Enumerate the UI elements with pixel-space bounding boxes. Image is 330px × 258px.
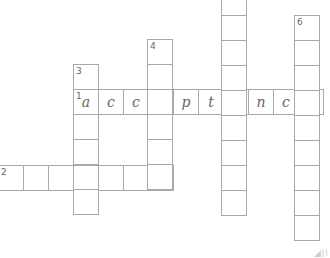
cell-letter: c [124, 94, 148, 110]
crossword-cell[interactable] [294, 190, 320, 216]
crossword-cell[interactable] [147, 139, 173, 165]
crossword-cell[interactable] [221, 90, 247, 116]
crossword-cell[interactable] [73, 189, 99, 215]
crossword-cell[interactable] [123, 165, 149, 191]
crossword-cell[interactable] [98, 165, 124, 191]
crossword-cell[interactable] [221, 165, 247, 191]
crossword-cell[interactable] [294, 90, 320, 116]
crossword-cell[interactable] [23, 165, 49, 191]
crossword-cell[interactable] [221, 140, 247, 166]
crossword-cell[interactable] [294, 165, 320, 191]
crossword-cell[interactable]: 2 [0, 165, 24, 191]
clue-number: 2 [1, 167, 7, 177]
crossword-cell[interactable]: 3 [73, 64, 99, 90]
crossword-cell[interactable]: c [123, 89, 149, 115]
clue-number: 5 [224, 0, 230, 2]
audio-icon[interactable]: ◢)) [314, 248, 328, 258]
cell-letter: n [249, 94, 273, 110]
crossword-cell[interactable] [221, 40, 247, 66]
crossword-cell[interactable] [73, 139, 99, 165]
crossword-cell[interactable] [147, 64, 173, 90]
cell-letter: a [74, 94, 98, 110]
crossword-cell[interactable] [147, 164, 173, 190]
crossword-cell[interactable] [73, 114, 99, 140]
crossword-cell[interactable] [147, 114, 173, 140]
crossword-board: 1acceptance23456 [0, 0, 330, 258]
crossword-cell[interactable]: 4 [147, 39, 173, 65]
crossword-cell[interactable] [221, 15, 247, 41]
cell-letter: t [199, 94, 223, 110]
crossword-cell[interactable]: n [248, 89, 274, 115]
crossword-cell[interactable] [73, 165, 99, 191]
crossword-cell[interactable]: c [98, 89, 124, 115]
crossword-cell[interactable]: 6 [294, 15, 320, 41]
cell-letter: c [99, 94, 123, 110]
crossword-cell[interactable]: 1a [73, 89, 99, 115]
crossword-cell[interactable] [221, 65, 247, 91]
clue-number: 4 [150, 41, 156, 51]
crossword-cell[interactable]: p [173, 89, 199, 115]
cell-letter: p [174, 94, 198, 110]
crossword-cell[interactable] [147, 89, 173, 115]
crossword-cell[interactable] [294, 140, 320, 166]
crossword-cell[interactable] [221, 115, 247, 141]
crossword-cell[interactable] [294, 215, 320, 241]
crossword-cell[interactable] [294, 40, 320, 66]
crossword-cell[interactable] [48, 165, 74, 191]
crossword-cell[interactable] [294, 65, 320, 91]
crossword-cell[interactable] [221, 190, 247, 216]
clue-number: 3 [76, 66, 82, 76]
crossword-cell[interactable]: 5 [221, 0, 247, 16]
clue-number: 6 [297, 17, 303, 27]
crossword-cell[interactable] [294, 115, 320, 141]
